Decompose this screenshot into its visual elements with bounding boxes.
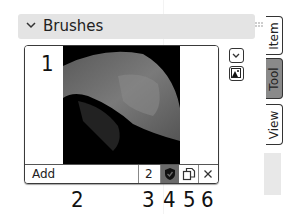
unlink-button[interactable]	[199, 165, 217, 183]
callout-label-3: 3	[142, 188, 155, 212]
chevron-down-icon	[25, 19, 37, 31]
tab-item[interactable]: Item	[266, 16, 283, 55]
brushes-panel-header[interactable]: Brushes	[18, 14, 255, 39]
duplicate-button[interactable]	[180, 165, 199, 183]
tab-view[interactable]: View	[266, 104, 283, 145]
tab-tool-label: Tool	[267, 67, 281, 90]
brush-image-button[interactable]	[229, 66, 244, 81]
tab-item-label: Item	[267, 22, 281, 49]
close-icon	[201, 167, 215, 181]
panel-title: Brushes	[43, 17, 103, 36]
tab-tool[interactable]: Tool	[266, 58, 283, 99]
brush-browse-dropdown-button[interactable]	[229, 48, 244, 63]
tab-region-filler	[264, 153, 281, 195]
callout-label-2: 2	[71, 188, 84, 212]
image-icon	[230, 67, 242, 79]
brush-thumbnail[interactable]	[63, 46, 180, 164]
callout-label-6: 6	[201, 188, 214, 212]
brush-preview-image	[63, 46, 180, 164]
user-count-value: 2	[145, 167, 153, 181]
callout-label-1: 1	[41, 51, 54, 77]
data-block-toolbar: Add 2	[25, 164, 218, 183]
fake-user-button[interactable]	[161, 165, 179, 183]
brush-name-value: Add	[32, 167, 55, 181]
user-count-button[interactable]: 2	[139, 165, 161, 183]
drag-grip-icon[interactable]	[255, 22, 263, 30]
duplicate-icon	[182, 167, 196, 181]
brush-data-block: 1 Add 2	[24, 45, 219, 184]
chevron-down-icon	[230, 49, 242, 61]
callout-label-5: 5	[183, 188, 196, 212]
shield-icon	[163, 167, 177, 181]
tab-view-label: View	[267, 110, 281, 138]
callout-label-4: 4	[163, 188, 176, 212]
thumbnail-margin-right	[180, 46, 218, 164]
brush-name-field[interactable]: Add	[25, 165, 139, 183]
